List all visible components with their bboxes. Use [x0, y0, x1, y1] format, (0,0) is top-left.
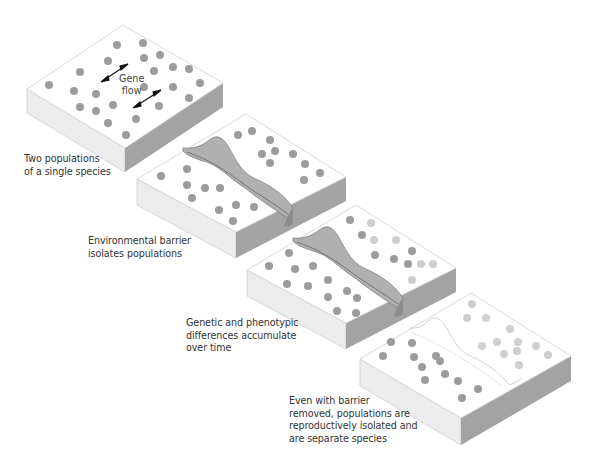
- gene-flow-label: Gene flow: [119, 73, 144, 97]
- caption-stage-2: Environmental barrier isolates populatio…: [88, 235, 191, 260]
- caption-stage-3: Genetic and phenotypic differences accum…: [186, 317, 298, 355]
- speciation-diagram: [0, 0, 591, 460]
- caption-stage-4: Even with barrier removed, populations a…: [289, 395, 417, 445]
- caption-stage-1: Two populations of a single species: [24, 153, 111, 178]
